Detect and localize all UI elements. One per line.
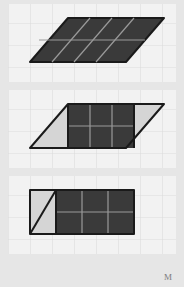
figure-panel-3 xyxy=(8,176,176,254)
figure-2-svg xyxy=(8,90,176,168)
figure-panel-2 xyxy=(8,90,176,168)
figure-1-svg xyxy=(8,4,176,82)
diagram-canvas: M xyxy=(0,0,184,287)
corner-watermark: M xyxy=(164,272,172,283)
figure-panel-1 xyxy=(8,4,176,82)
figure-3-svg xyxy=(8,176,176,254)
